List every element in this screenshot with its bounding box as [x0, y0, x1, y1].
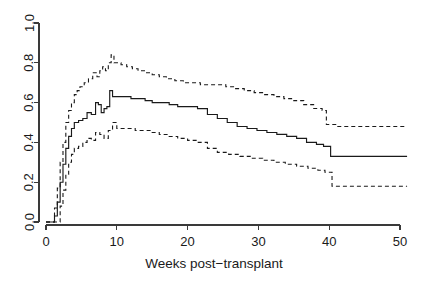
y-tick-labels: 0.00.20.40.60.81.0 [22, 14, 37, 231]
x-tick-label: 20 [180, 234, 194, 249]
x-tick-label: 0 [42, 234, 49, 249]
x-tick-label: 40 [322, 234, 336, 249]
y-tick-label: 0.8 [22, 54, 37, 72]
data-series-group [46, 55, 407, 222]
x-tick-label: 50 [393, 234, 407, 249]
x-axis-title: Weeks post−transplant [145, 256, 283, 271]
y-tick-label: 0.2 [22, 173, 37, 191]
series-path-2 [46, 123, 407, 223]
chart-figure: 01020304050 0.00.20.40.60.81.0 Weeks pos… [0, 0, 428, 281]
step-plot-svg: 01020304050 0.00.20.40.60.81.0 Weeks pos… [0, 0, 428, 281]
y-tick-label: 0.0 [22, 213, 37, 231]
x-tick-labels: 01020304050 [42, 234, 407, 249]
y-tick-label: 0.6 [22, 94, 37, 112]
x-tick-label: 10 [110, 234, 124, 249]
x-tick-label: 30 [251, 234, 265, 249]
series-path-1 [46, 91, 407, 222]
y-tick-label: 1.0 [22, 14, 37, 32]
y-tick-label: 0.4 [22, 133, 37, 151]
series-path-0 [46, 55, 407, 222]
